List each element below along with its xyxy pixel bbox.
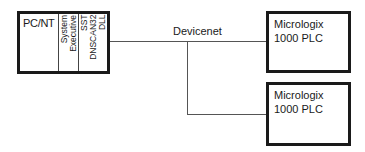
devicenet-label: Devicenet: [173, 25, 222, 37]
plc-2-label: Micrologix 1000 PLC: [274, 88, 324, 116]
branch-horizontal-line: [187, 114, 267, 115]
label-dll: DLL: [98, 15, 107, 71]
plc-1-model: 1000 PLC: [274, 31, 324, 45]
pc-title: PC/NT: [23, 17, 55, 29]
plc-box-1: Micrologix 1000 PLC: [266, 11, 351, 73]
pc-nt-box: PC/NT System Executive SST DNSCAN32 DLL: [17, 11, 110, 74]
plc-2-name: Micrologix: [274, 88, 324, 102]
devicenet-bus-line: [110, 41, 267, 42]
plc-box-2: Micrologix 1000 PLC: [266, 82, 351, 146]
branch-vertical-line: [187, 41, 188, 115]
system-executive-column: System Executive: [59, 14, 78, 71]
plc-1-label: Micrologix 1000 PLC: [274, 17, 324, 45]
plc-2-model: 1000 PLC: [274, 102, 324, 116]
label-executive: Executive: [69, 15, 78, 71]
plc-1-name: Micrologix: [274, 17, 324, 31]
system-executive-label: System Executive: [60, 15, 78, 71]
sst-dll-label: SST DNSCAN32 DLL: [80, 15, 107, 71]
sst-dll-column: SST DNSCAN32 DLL: [79, 14, 107, 71]
